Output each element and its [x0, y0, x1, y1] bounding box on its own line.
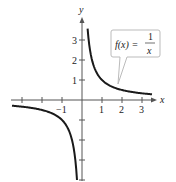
chart: −1123123 f(x) = 1 x x y — [0, 0, 176, 182]
function-denominator: x — [146, 45, 152, 56]
y-tick-label: 2 — [72, 55, 77, 66]
y-tick-label: 3 — [72, 35, 77, 46]
x-tick-label: 3 — [139, 104, 144, 115]
function-numerator: 1 — [148, 31, 153, 42]
function-lhs: f(x) = — [115, 39, 138, 51]
curve-negative-branch — [12, 106, 77, 180]
x-tick-label: −1 — [56, 104, 67, 115]
x-axis-arrow-icon — [151, 98, 157, 103]
y-axis-label: y — [78, 4, 84, 15]
function-callout: f(x) = 1 x — [111, 30, 160, 84]
x-tick-label: 1 — [99, 104, 104, 115]
x-tick-label: 2 — [119, 104, 124, 115]
x-axis-label: x — [159, 94, 165, 105]
y-axis-arrow-icon — [80, 17, 85, 23]
y-tick-label: 1 — [72, 75, 77, 86]
